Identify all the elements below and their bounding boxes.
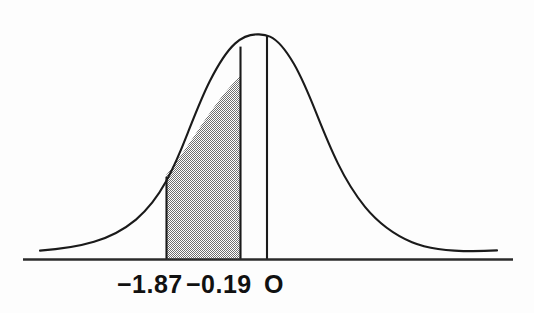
normal-curve-figure: −1.87 −0.19 O	[0, 0, 534, 313]
shaded-area-region	[166, 40, 241, 259]
axis-tick-label-mid: −0.19	[186, 272, 252, 297]
axis-tick-label-origin: O	[264, 272, 284, 297]
axis-tick-label-left: −1.87	[117, 272, 183, 297]
distribution-plot	[0, 0, 534, 313]
normal-curve-path	[40, 34, 497, 251]
